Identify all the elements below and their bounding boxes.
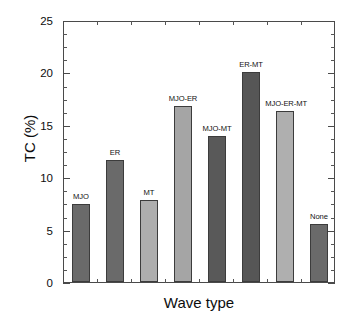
x-axis-title: Wave type <box>63 294 335 311</box>
bar-value-label: MJO-ER <box>169 94 198 103</box>
y-tick-minor-right <box>331 113 335 114</box>
y-tick-major <box>63 178 70 179</box>
bar <box>276 111 295 282</box>
y-tick-major-right <box>328 178 335 179</box>
y-tick-minor <box>63 60 67 61</box>
bar-group: MT <box>140 22 159 282</box>
bar <box>208 136 227 282</box>
y-tick-minor <box>63 113 67 114</box>
bar-value-label: MJO-ER-MT <box>265 99 307 108</box>
bar <box>72 204 91 282</box>
y-tick-major <box>63 21 70 22</box>
y-tick-major <box>63 283 70 284</box>
bar-value-label: None <box>310 212 328 221</box>
bar-group: ER-MT <box>242 22 261 282</box>
y-tick-minor-right <box>331 152 335 153</box>
x-tick-bottom <box>233 279 234 283</box>
y-tick-label: 0 <box>13 277 53 289</box>
y-tick-minor <box>63 191 67 192</box>
y-tick-label: 15 <box>13 120 53 132</box>
y-tick-minor-right <box>331 47 335 48</box>
y-tick-major-right <box>328 231 335 232</box>
x-tick-bottom <box>131 279 132 283</box>
bars-container: MJOERMTMJO-ERMJO-MTER-MTMJO-ER-MTNone <box>64 22 334 282</box>
x-tick-top <box>165 21 166 25</box>
y-tick-minor <box>63 152 67 153</box>
y-tick-label: 10 <box>13 172 53 184</box>
x-tick-bottom <box>97 279 98 283</box>
y-tick-minor-right <box>331 204 335 205</box>
y-tick-label: 25 <box>13 15 53 27</box>
bar-chart-figure: TC (%) MJOERMTMJO-ERMJO-MTER-MTMJO-ER-MT… <box>0 0 355 322</box>
y-tick-minor-right <box>331 270 335 271</box>
x-tick-bottom <box>267 279 268 283</box>
y-tick-minor <box>63 270 67 271</box>
y-tick-major <box>63 73 70 74</box>
plot-area: MJOERMTMJO-ERMJO-MTER-MTMJO-ER-MTNone <box>63 21 335 283</box>
x-tick-top <box>301 21 302 25</box>
y-tick-minor-right <box>331 34 335 35</box>
bar <box>174 106 193 282</box>
bar-group: ER <box>106 22 125 282</box>
bar-group: MJO-ER <box>174 22 193 282</box>
y-tick-minor <box>63 257 67 258</box>
y-tick-label: 5 <box>13 225 53 237</box>
y-tick-minor <box>63 218 67 219</box>
y-tick-major <box>63 231 70 232</box>
x-tick-top <box>97 21 98 25</box>
y-tick-minor-right <box>331 60 335 61</box>
bar-group: MJO-MT <box>208 22 227 282</box>
bar-group: MJO-ER-MT <box>276 22 295 282</box>
x-tick-bottom <box>301 279 302 283</box>
bar <box>106 160 125 282</box>
y-tick-major-right <box>328 21 335 22</box>
y-tick-minor <box>63 244 67 245</box>
bar-group: None <box>310 22 329 282</box>
y-tick-minor-right <box>331 139 335 140</box>
bar <box>310 224 329 282</box>
y-tick-major-right <box>328 73 335 74</box>
y-tick-minor-right <box>331 218 335 219</box>
y-tick-minor <box>63 139 67 140</box>
y-tick-minor <box>63 47 67 48</box>
x-tick-top <box>199 21 200 25</box>
y-tick-minor-right <box>331 244 335 245</box>
y-tick-minor-right <box>331 165 335 166</box>
y-tick-minor <box>63 100 67 101</box>
bar <box>242 72 261 282</box>
x-tick-top <box>267 21 268 25</box>
x-tick-top <box>131 21 132 25</box>
y-tick-major-right <box>328 126 335 127</box>
bar <box>140 200 159 282</box>
y-tick-major <box>63 126 70 127</box>
y-tick-minor <box>63 34 67 35</box>
y-tick-minor <box>63 165 67 166</box>
bar-value-label: ER <box>110 148 120 157</box>
bar-group: MJO <box>72 22 91 282</box>
bar-value-label: MT <box>144 188 155 197</box>
y-tick-minor-right <box>331 100 335 101</box>
bar-value-label: MJO-MT <box>203 124 232 133</box>
y-tick-minor-right <box>331 257 335 258</box>
bar-value-label: MJO <box>73 192 89 201</box>
bar-value-label: ER-MT <box>239 60 263 69</box>
y-tick-minor-right <box>331 87 335 88</box>
x-tick-top <box>233 21 234 25</box>
y-tick-minor-right <box>331 191 335 192</box>
y-tick-minor <box>63 87 67 88</box>
x-tick-bottom <box>165 279 166 283</box>
y-tick-major-right <box>328 283 335 284</box>
y-tick-minor <box>63 204 67 205</box>
x-tick-bottom <box>199 279 200 283</box>
y-tick-label: 20 <box>13 67 53 79</box>
